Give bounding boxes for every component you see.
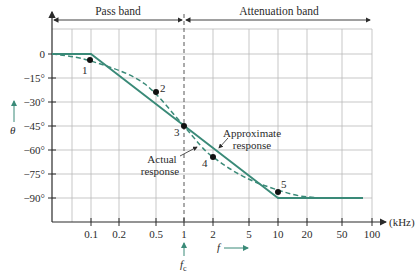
y-tick-30: −30° <box>23 96 45 108</box>
axes <box>52 12 386 222</box>
x-unit-label: (kHz) <box>389 216 415 229</box>
x-tick-10: 10 <box>273 228 285 240</box>
grid <box>52 29 372 222</box>
approximate-pointer <box>219 138 228 148</box>
x-tick-50: 50 <box>337 228 349 240</box>
y-tick-60: −60° <box>23 144 45 156</box>
actual-label-line1: Actual <box>147 153 176 165</box>
pass-band-label: Pass band <box>95 5 141 17</box>
point-1-label: 1 <box>82 64 88 76</box>
x-tick-100: 100 <box>364 228 381 240</box>
y-tick-45: −45° <box>23 120 45 132</box>
x-tick-2: 2 <box>210 228 216 240</box>
x-tick-0.5: 0.5 <box>149 228 163 240</box>
y-tick-0: 0 <box>40 48 46 60</box>
attenuation-band-label: Attenuation band <box>239 5 319 17</box>
y-tick-15: −15° <box>23 72 45 84</box>
point-4-label: 4 <box>202 157 208 169</box>
x-tick-0.1: 0.1 <box>84 228 98 240</box>
fc-label: fc <box>180 258 187 273</box>
y-tick-75: −75° <box>23 168 45 180</box>
point-3-label: 3 <box>174 126 180 138</box>
theta-label: θ <box>10 124 16 136</box>
f-axis-label: f <box>217 241 222 253</box>
actual-label-line2: response <box>141 165 180 177</box>
x-tick-0.2: 0.2 <box>112 228 126 240</box>
point-2-label: 2 <box>160 82 166 94</box>
phase-plot: Pass band Attenuation band 1 2 3 4 5 App… <box>0 0 420 279</box>
x-tick-5: 5 <box>246 228 252 240</box>
x-tick-20: 20 <box>302 228 314 240</box>
approximate-label-line1: Approximate <box>223 127 281 139</box>
y-tick-90: −90° <box>23 192 45 204</box>
x-tick-1: 1 <box>181 228 187 240</box>
approximate-label-line2: response <box>233 139 272 151</box>
point-5-label: 5 <box>281 178 287 190</box>
actual-pointer <box>180 147 197 156</box>
